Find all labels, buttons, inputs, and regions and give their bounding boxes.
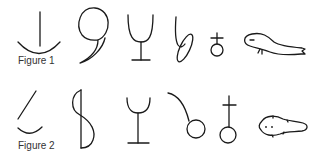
wine-glass-glyph <box>128 15 153 60</box>
glyph-diagram <box>0 0 323 161</box>
figure-2-caption: Figure 2 <box>18 140 55 151</box>
slanted-line-over-arc-glyph <box>18 91 42 133</box>
circle-with-cross-glyph <box>211 33 223 56</box>
anchor-line-over-arc-glyph <box>18 12 60 54</box>
wine-glass-glyph-2 <box>127 98 150 143</box>
figure-1-caption: Figure 1 <box>18 55 55 66</box>
figure-2-glyphs <box>18 90 307 148</box>
curve-into-circle-glyph <box>168 93 205 138</box>
circle-with-tall-cross-glyph <box>220 96 236 143</box>
salamander-glyph <box>245 33 305 54</box>
figure-1-glyphs <box>18 8 305 64</box>
s-shape-with-vertical-glyph <box>73 90 94 148</box>
comma-shape-glyph <box>79 8 108 63</box>
b-shape-with-oval-glyph <box>174 17 196 64</box>
tadpole-glyph <box>259 116 307 137</box>
